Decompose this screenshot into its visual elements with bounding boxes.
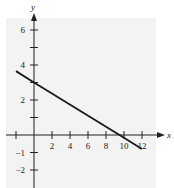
tick-label: −1: [15, 148, 25, 158]
x-axis-label: x: [166, 130, 171, 140]
tick-label: 2: [21, 95, 26, 105]
tick-label: 8: [104, 141, 109, 151]
tick-label: −2: [15, 165, 25, 175]
chart: x y 24681012 −2−1246: [0, 0, 174, 188]
tick-label: 2: [50, 141, 55, 151]
tick-label: 6: [86, 141, 91, 151]
tick-label: 4: [21, 60, 26, 70]
tick-label: 4: [68, 141, 73, 151]
x-axis-arrow-icon: [157, 132, 165, 138]
plot-background: [6, 18, 156, 188]
tick-label: 10: [120, 141, 130, 151]
tick-label: 6: [21, 25, 26, 35]
y-axis-label: y: [30, 2, 35, 12]
y-axis-arrow-icon: [31, 13, 37, 21]
